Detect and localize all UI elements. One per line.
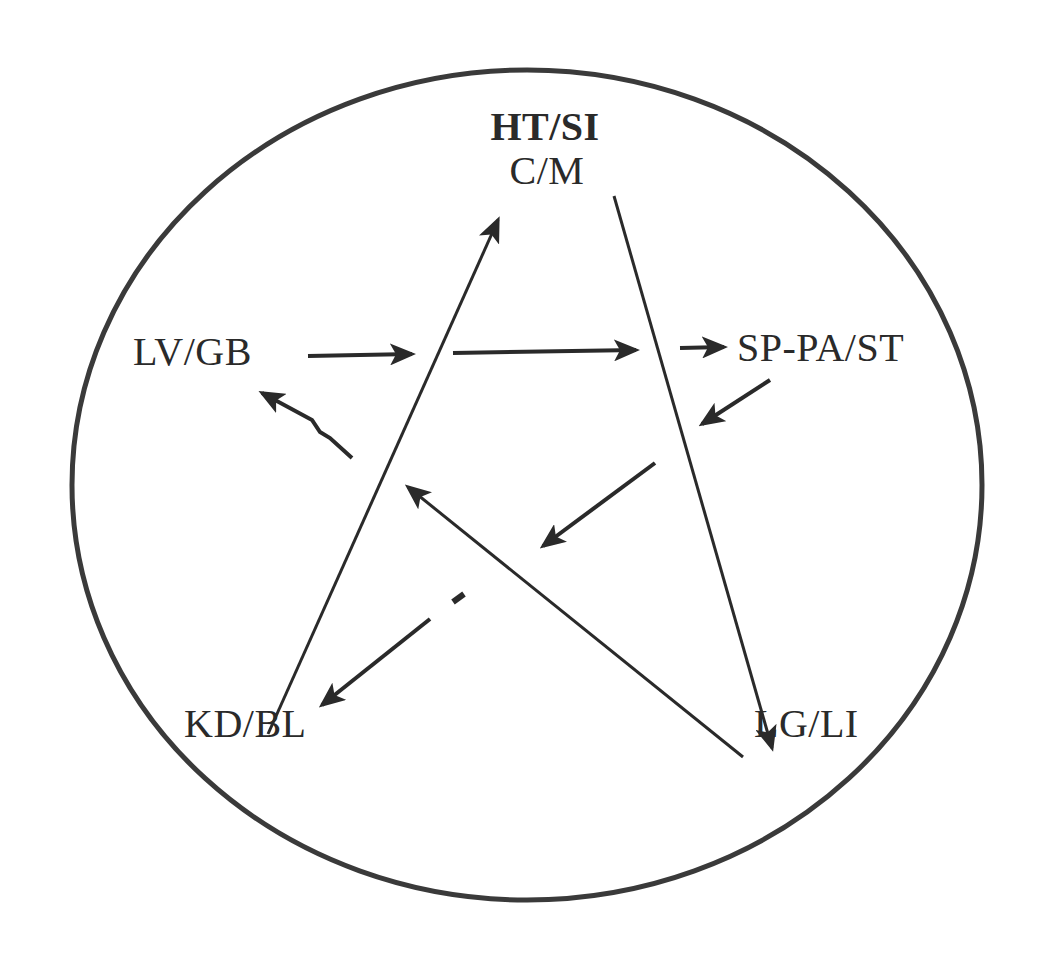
node-sppast-label: SP-PA/ST [737, 327, 904, 369]
edge-htsi-to-lgli [614, 196, 772, 748]
edge-lgli-to-center [408, 487, 743, 757]
node-htsi-label: HT/SI [484, 106, 606, 148]
edge-center-to-lvgb [262, 393, 352, 458]
edge-center-to-kdbl [322, 619, 430, 705]
edge-lvgb-segment-3 [680, 347, 724, 348]
outer-circle [72, 70, 982, 900]
edge-lvgb-segment-1 [308, 354, 412, 356]
edge-spst-segment-2 [543, 463, 655, 546]
node-kdbl-label: KD/BL [184, 703, 307, 745]
node-lgli-label: LG/LI [754, 703, 859, 745]
node-lvgb-label: LV/GB [133, 331, 252, 373]
edge-lvgb-segment-2 [453, 350, 636, 353]
edge-center-fragment [453, 594, 464, 602]
edge-spst-segment-1 [702, 380, 770, 424]
node-cm-label: C/M [486, 150, 608, 192]
